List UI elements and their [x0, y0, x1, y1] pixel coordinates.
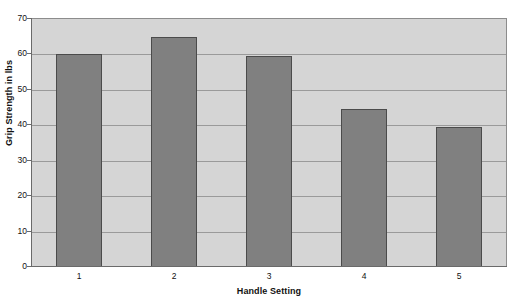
x-tick-label-1: 1 [59, 271, 99, 281]
y-tick-label: 20 [3, 191, 27, 200]
x-tick-label-5: 5 [439, 271, 479, 281]
x-axis-line [31, 266, 507, 267]
bar-2 [151, 37, 197, 267]
y-tick-label: 0 [3, 262, 27, 271]
y-tick-label: 10 [3, 227, 27, 236]
gridline [31, 54, 506, 55]
y-tick: 30 [0, 160, 27, 161]
bar-1 [56, 54, 102, 267]
bar-4 [341, 109, 387, 267]
y-tick-mark [27, 195, 31, 196]
y-tick-mark [27, 160, 31, 161]
x-tick-label-4: 4 [344, 271, 384, 281]
y-tick: 20 [0, 195, 27, 196]
y-tick: 70 [0, 18, 27, 19]
x-tick-label-2: 2 [154, 271, 194, 281]
y-tick-mark [27, 89, 31, 90]
y-tick-mark [27, 18, 31, 19]
plot-area [31, 18, 507, 267]
y-axis-title: Grip Strength in lbs [2, 48, 16, 158]
bar-5 [436, 127, 482, 267]
y-tick: 10 [0, 231, 27, 232]
y-tick: 0 [0, 266, 27, 267]
y-tick: 40 [0, 124, 27, 125]
y-tick-label: 40 [3, 120, 27, 129]
bar-3 [246, 56, 292, 267]
x-axis-title: Handle Setting [31, 286, 507, 296]
y-tick-mark [27, 266, 31, 267]
y-axis-line [31, 18, 32, 267]
bar-chart: Grip Strength in lbs 010203040506070 123… [0, 0, 514, 303]
x-tick-label-3: 3 [249, 271, 289, 281]
y-tick: 50 [0, 89, 27, 90]
y-tick-label: 60 [3, 49, 27, 58]
y-tick-label: 50 [3, 85, 27, 94]
y-tick-label: 30 [3, 156, 27, 165]
y-tick-mark [27, 231, 31, 232]
y-tick-label: 70 [3, 14, 27, 23]
y-tick-mark [27, 53, 31, 54]
y-tick-mark [27, 124, 31, 125]
y-tick: 60 [0, 53, 27, 54]
